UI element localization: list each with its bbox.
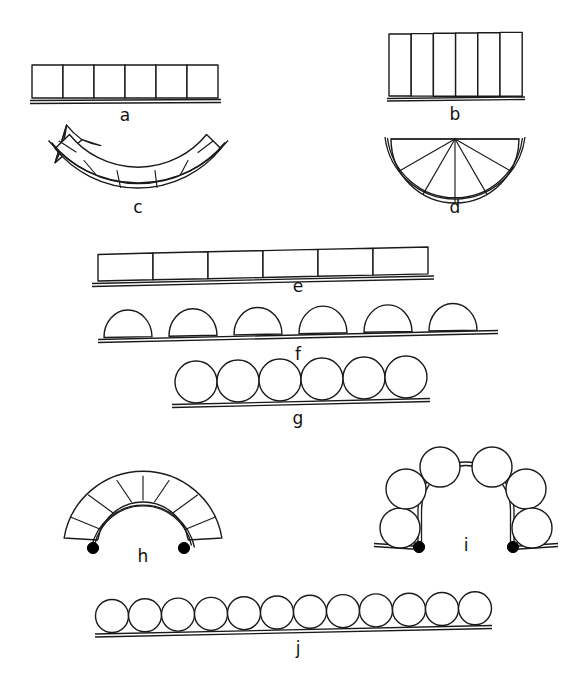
panel-i-label: i [464, 535, 469, 555]
panel-g-baseline [172, 399, 430, 408]
panel-f: f [98, 304, 498, 364]
panel-a-baseline [30, 100, 221, 104]
panel-f-label: f [295, 344, 302, 364]
panel-j-label: j [295, 638, 301, 658]
pivot-marker-right [507, 541, 518, 552]
panel-e: e [92, 247, 434, 296]
figure-plate: a b [0, 0, 575, 690]
panel-d: d [385, 137, 525, 217]
panel-g-label: g [293, 408, 304, 428]
panel-b-label: b [450, 104, 461, 124]
panel-g: g [172, 356, 430, 428]
panel-c-label: c [133, 197, 142, 217]
panel-h-label: h [138, 546, 149, 566]
panel-d-label: d [450, 197, 461, 217]
panel-e-cells [98, 247, 428, 281]
panel-c: c [49, 125, 229, 217]
panel-f-baseline [98, 331, 498, 343]
panel-j: j [95, 592, 492, 658]
pivot-marker-right [178, 542, 189, 553]
panel-b-baseline [387, 97, 525, 101]
pivot-marker-left [413, 541, 424, 552]
panel-b-cells [389, 32, 522, 96]
technical-line-drawing: a b [0, 0, 575, 690]
panel-c-band [55, 135, 221, 188]
panel-b: b [387, 32, 525, 124]
panel-i: i [374, 447, 558, 555]
panel-a-label: a [120, 105, 130, 125]
panel-e-label: e [293, 276, 303, 296]
panel-h: h [64, 471, 222, 566]
panel-a: a [30, 65, 221, 125]
pivot-marker-left [87, 542, 98, 553]
panel-a-cells [32, 65, 218, 98]
panel-g-circles [175, 356, 427, 403]
